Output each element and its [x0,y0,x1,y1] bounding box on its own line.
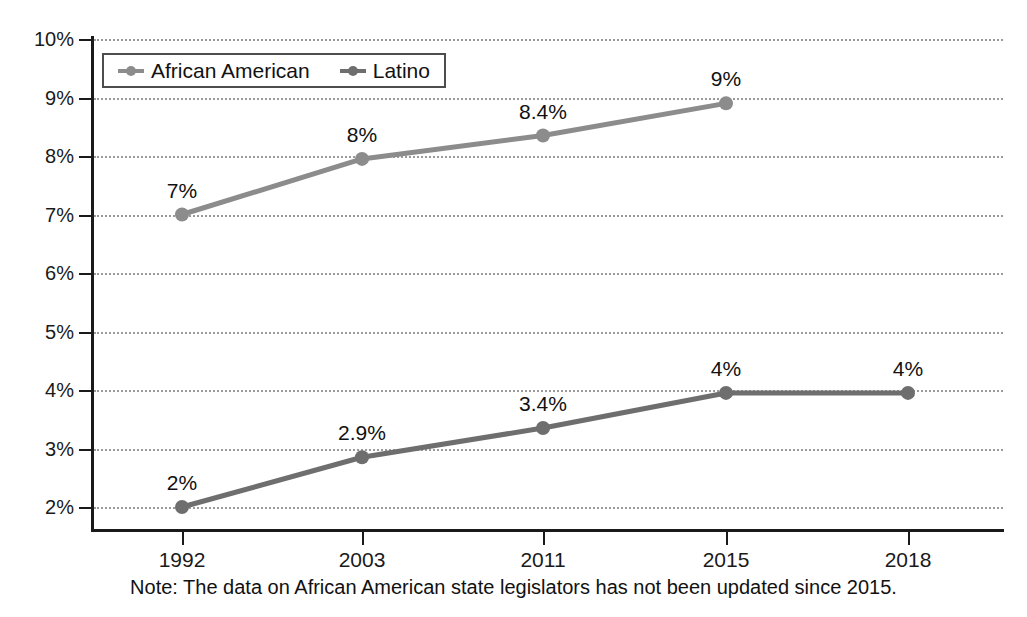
gridline [94,332,1003,334]
y-axis-label: 6% [4,262,74,285]
line-marker-icon [340,64,366,78]
y-axis-label: 8% [4,145,74,168]
y-axis-label: 7% [4,203,74,226]
x-axis-tick [543,532,545,545]
x-axis-tick [182,532,184,545]
gridline [94,215,1003,217]
x-axis-label: 2003 [339,548,386,572]
legend-label-latino: Latino [373,59,430,83]
gridline [94,39,1003,41]
data-point-label: 3.4% [519,392,567,416]
data-point-label: 8% [347,123,377,147]
y-axis-tick [79,98,91,100]
legend-item-latino[interactable]: Latino [340,59,430,83]
y-axis-label: 4% [4,379,74,402]
data-point [719,386,733,400]
y-axis-tick [79,507,91,509]
data-point [901,386,915,400]
series-line-african-american [182,103,726,214]
data-point [355,152,369,166]
y-axis-tick [79,332,91,334]
gridline [94,273,1003,275]
y-axis-label: 10% [4,28,74,51]
x-axis-label: 2018 [885,548,932,572]
x-axis-label: 2015 [703,548,750,572]
y-axis-tick [79,390,91,392]
chart-legend: African American Latino [102,53,446,88]
data-point-label: 2.9% [338,421,386,445]
chart-note: Note: The data on African American state… [0,576,1027,599]
y-axis-tick [79,156,91,158]
x-axis-tick [362,532,364,545]
y-axis-line [91,36,94,532]
data-point-label: 4% [893,357,923,381]
x-axis-label: 1992 [159,548,206,572]
plot-area [0,0,1027,617]
data-point [355,450,369,464]
gridline [94,449,1003,451]
data-point-label: 8.4% [519,100,567,124]
data-point-label: 4% [711,357,741,381]
y-axis-tick [79,215,91,217]
y-axis-label: 5% [4,320,74,343]
data-point-label: 2% [167,471,197,495]
data-point [536,421,550,435]
y-axis-label: 9% [4,86,74,109]
legend-label-african-american: African American [151,59,310,83]
x-axis-tick [908,532,910,545]
chart-container: 2%3%4%5%6%7%8%9%10% 19922003201120152018… [0,0,1027,617]
data-point-label: 9% [711,67,741,91]
x-axis-label: 2011 [520,548,565,572]
y-axis-label: 2% [4,496,74,519]
data-point [536,129,550,143]
y-axis-tick [79,449,91,451]
gridline [94,507,1003,509]
x-axis-line [91,529,1004,532]
x-axis-tick [726,532,728,545]
legend-item-african-american[interactable]: African American [118,59,310,83]
line-marker-icon [118,64,144,78]
y-axis-tick [79,39,91,41]
gridline [94,156,1003,158]
y-axis-tick [79,273,91,275]
data-point-label: 7% [167,179,197,203]
y-axis-label: 3% [4,437,74,460]
